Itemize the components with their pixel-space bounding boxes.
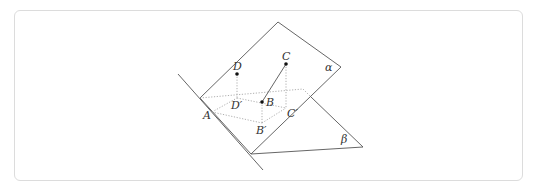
label-alpha: α [325, 61, 333, 74]
plane-beta-hidden-edge-2 [303, 89, 311, 97]
plane-beta-hidden-edge [200, 89, 303, 98]
label-B: B [265, 96, 274, 109]
label-beta: β [340, 133, 347, 146]
plane-beta-edge-bottom [251, 147, 363, 154]
label-A: A [202, 109, 211, 122]
label-C: C [282, 50, 291, 63]
point-B [260, 100, 264, 104]
intersection-line [178, 74, 263, 170]
geometry-diagram: D C B A D′ B′ C′ α β [0, 0, 538, 192]
label-D: D [232, 60, 242, 73]
label-B-prime: B′ [255, 124, 267, 137]
segment-Bprime-Cprime [262, 108, 286, 123]
label-C-prime: C′ [287, 107, 298, 120]
plane-beta-edge-right [311, 97, 363, 147]
label-D-prime: D′ [230, 99, 243, 112]
